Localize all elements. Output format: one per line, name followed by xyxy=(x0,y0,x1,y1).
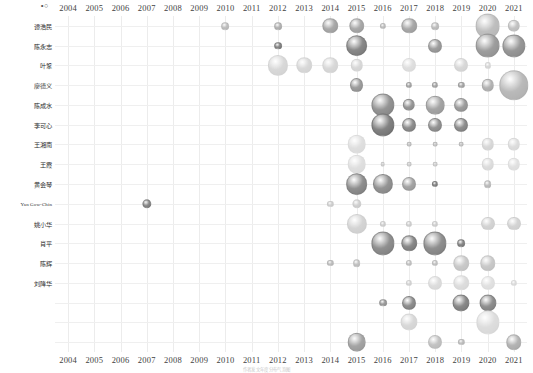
bubble-r0-y2010[interactable] xyxy=(222,22,230,30)
bubble-r15-y2017[interactable] xyxy=(400,314,417,331)
bubble-r16-y2015[interactable] xyxy=(347,333,366,352)
bubble-r10-y2017[interactable] xyxy=(406,220,412,226)
bubble-r10-y2015[interactable] xyxy=(346,213,366,233)
bubble-r0-y2014[interactable] xyxy=(323,18,339,34)
bubble-r16-y2018[interactable] xyxy=(428,335,442,349)
bubble-r8-y2020[interactable] xyxy=(484,180,492,188)
bubble-r6-y2020[interactable] xyxy=(481,138,493,150)
bubble-r8-y2018[interactable] xyxy=(432,181,438,187)
bubble-r7-y2015[interactable] xyxy=(347,155,366,174)
bubble-r0-y2012[interactable] xyxy=(274,22,282,30)
bubble-r1-y2012[interactable] xyxy=(274,42,282,50)
gridline-row-3 xyxy=(55,85,527,86)
bubble-r1-y2020[interactable] xyxy=(475,33,500,58)
bubble-r0-y2018[interactable] xyxy=(431,22,439,30)
bubble-r5-y2017[interactable] xyxy=(402,118,416,132)
author-label-7: 王霞 xyxy=(0,160,52,169)
bubble-r10-y2018[interactable] xyxy=(432,220,438,226)
bubble-r3-y2021[interactable] xyxy=(499,70,528,99)
bubble-r14-y2019[interactable] xyxy=(453,294,470,311)
bubble-r12-y2014[interactable] xyxy=(327,260,333,266)
bubble-r1-y2021[interactable] xyxy=(502,34,525,57)
bubble-r0-y2017[interactable] xyxy=(401,18,417,34)
bubble-r8-y2016[interactable] xyxy=(373,174,393,194)
year-tick-2014: 2014 xyxy=(321,355,339,365)
bubble-r14-y2017[interactable] xyxy=(402,296,416,310)
bubble-r3-y2020[interactable] xyxy=(481,79,493,91)
bubble-r16-y2021[interactable] xyxy=(506,334,522,350)
bubble-r14-y2020[interactable] xyxy=(479,294,496,311)
year-tick-2011: 2011 xyxy=(243,3,261,13)
bubble-r14-y2016[interactable] xyxy=(379,299,387,307)
bubble-r6-y2015[interactable] xyxy=(347,135,366,154)
year-tick-2007: 2007 xyxy=(138,3,156,13)
chart-caption: 作者发文年度分布气泡图 xyxy=(0,366,533,372)
bubble-r5-y2019[interactable] xyxy=(454,118,468,132)
bubble-r11-y2017[interactable] xyxy=(401,236,417,252)
bubble-r6-y2017[interactable] xyxy=(407,142,412,147)
author-label-12: 陈辉 xyxy=(0,259,52,268)
bubble-r12-y2018[interactable] xyxy=(432,260,438,266)
bubble-r13-y2021[interactable] xyxy=(511,280,517,286)
bubble-r6-y2019[interactable] xyxy=(459,142,464,147)
bubble-r2-y2017[interactable] xyxy=(402,58,416,72)
gridline-row-9 xyxy=(55,204,527,205)
bubble-r5-y2018[interactable] xyxy=(428,118,442,132)
bubble-r1-y2015[interactable] xyxy=(346,35,368,57)
bubble-r11-y2018[interactable] xyxy=(424,232,447,255)
bubble-r13-y2020[interactable] xyxy=(481,276,495,290)
bubble-r11-y2019[interactable] xyxy=(458,239,466,247)
bubble-r4-y2019[interactable] xyxy=(454,98,468,112)
bubble-r0-y2021[interactable] xyxy=(508,20,520,32)
bubble-r13-y2017[interactable] xyxy=(406,280,412,286)
bubble-r7-y2021[interactable] xyxy=(508,158,520,170)
bubble-r10-y2021[interactable] xyxy=(507,217,521,231)
bubble-r3-y2015[interactable] xyxy=(350,78,364,92)
bubble-r3-y2017[interactable] xyxy=(406,82,412,88)
bubble-r10-y2016[interactable] xyxy=(380,220,386,226)
bubble-r16-y2019[interactable] xyxy=(458,339,464,345)
bubble-r12-y2019[interactable] xyxy=(454,255,470,271)
year-tick-2006: 2006 xyxy=(112,355,130,365)
year-tick-2020: 2020 xyxy=(479,3,497,13)
bubble-r9-y2007[interactable] xyxy=(142,199,151,208)
bubble-r0-y2015[interactable] xyxy=(349,18,365,34)
bubble-r6-y2018[interactable] xyxy=(433,142,438,147)
bubble-r12-y2020[interactable] xyxy=(480,255,496,271)
bubble-r1-y2018[interactable] xyxy=(428,39,442,53)
bubble-r13-y2018[interactable] xyxy=(428,276,442,290)
bubble-r2-y2012[interactable] xyxy=(268,55,288,75)
bubble-r9-y2014[interactable] xyxy=(327,201,333,207)
bubble-r11-y2016[interactable] xyxy=(371,232,394,255)
bubble-r3-y2019[interactable] xyxy=(458,82,464,88)
year-tick-2018: 2018 xyxy=(426,355,444,365)
bubble-r7-y2018[interactable] xyxy=(433,162,438,167)
gridline-row-16 xyxy=(55,342,527,343)
year-tick-2012: 2012 xyxy=(269,3,287,13)
year-tick-2008: 2008 xyxy=(164,3,182,13)
bubble-r10-y2020[interactable] xyxy=(481,217,495,231)
bubble-r2-y2020[interactable] xyxy=(485,62,491,68)
bubble-r2-y2019[interactable] xyxy=(454,58,468,72)
bubble-r0-y2016[interactable] xyxy=(380,23,386,29)
bubble-r4-y2017[interactable] xyxy=(403,99,415,111)
bubble-r3-y2018[interactable] xyxy=(432,82,438,88)
bubble-r7-y2017[interactable] xyxy=(407,162,412,167)
bubble-r7-y2016[interactable] xyxy=(380,162,385,167)
gridline-row-0 xyxy=(55,26,527,27)
bubble-r6-y2021[interactable] xyxy=(508,138,520,150)
bubble-r8-y2017[interactable] xyxy=(402,177,416,191)
bubble-r5-y2016[interactable] xyxy=(371,113,394,136)
bubble-r2-y2015[interactable] xyxy=(350,59,362,71)
bubble-r2-y2014[interactable] xyxy=(323,58,339,74)
bubble-r12-y2015[interactable] xyxy=(353,259,361,267)
bubble-r13-y2019[interactable] xyxy=(454,275,470,291)
bubble-r8-y2015[interactable] xyxy=(346,173,368,195)
bubble-r9-y2015[interactable] xyxy=(352,199,361,208)
bubble-r12-y2017[interactable] xyxy=(406,260,412,266)
bubble-r4-y2018[interactable] xyxy=(426,96,445,115)
bubble-r7-y2020[interactable] xyxy=(481,158,493,170)
bubble-r2-y2013[interactable] xyxy=(296,58,312,74)
bubble-r15-y2020[interactable] xyxy=(476,311,499,334)
year-tick-2008: 2008 xyxy=(164,355,182,365)
